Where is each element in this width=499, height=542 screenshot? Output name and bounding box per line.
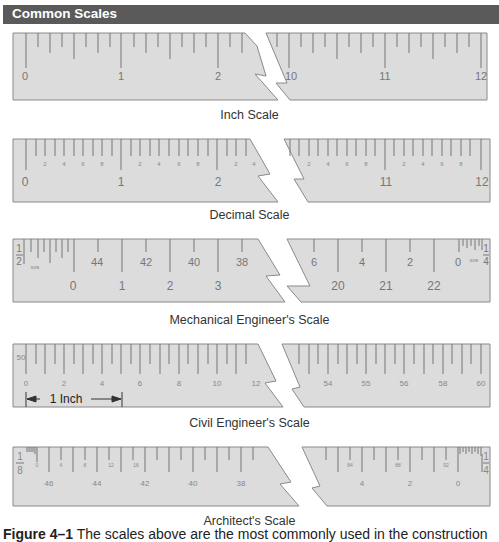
- svg-text:88: 88: [395, 462, 401, 468]
- svg-text:1: 1: [17, 451, 23, 462]
- section-title: Common Scales: [12, 6, 117, 21]
- svg-text:3: 3: [215, 279, 222, 293]
- civil-scale-label: Civil Engineer's Scale: [0, 416, 499, 430]
- caption-text: The scales above are the most commonly u…: [77, 526, 488, 542]
- svg-text:46: 46: [45, 479, 54, 488]
- svg-text:38: 38: [236, 256, 248, 268]
- svg-text:40: 40: [188, 256, 200, 268]
- svg-text:2: 2: [16, 256, 22, 267]
- svg-text:2: 2: [167, 279, 174, 293]
- svg-text:44: 44: [93, 479, 102, 488]
- svg-text:0: 0: [70, 279, 77, 293]
- svg-text:4: 4: [60, 462, 63, 468]
- svg-text:2: 2: [215, 175, 222, 189]
- svg-text:4: 4: [359, 256, 365, 268]
- svg-text:0: 0: [36, 462, 39, 468]
- section-header: Common Scales: [3, 5, 499, 24]
- svg-text:2: 2: [215, 70, 221, 82]
- svg-text:50: 50: [17, 353, 26, 362]
- svg-text:4: 4: [360, 479, 365, 488]
- svg-text:0: 0: [455, 256, 461, 268]
- svg-text:55: 55: [362, 379, 371, 388]
- svg-text:4: 4: [483, 465, 489, 476]
- svg-text:10: 10: [213, 379, 222, 388]
- civil-scale-diagram: 50 0 2 4 6 8 10 12 54 55 56 58 60 1 Inch: [0, 343, 499, 409]
- svg-text:40: 40: [189, 479, 198, 488]
- svg-text:4: 4: [483, 256, 489, 267]
- svg-text:1: 1: [16, 243, 22, 254]
- svg-text:1: 1: [483, 243, 489, 254]
- svg-text:38: 38: [237, 479, 246, 488]
- svg-text:8: 8: [17, 465, 23, 476]
- svg-text:58: 58: [439, 379, 448, 388]
- decimal-scale-diagram: 2468 2468 24 2468 2468 0 1 2 11 12: [0, 138, 499, 204]
- svg-text:6: 6: [138, 379, 143, 388]
- svg-text:56: 56: [400, 379, 409, 388]
- svg-text:42: 42: [141, 479, 150, 488]
- svg-text:44: 44: [91, 256, 103, 268]
- svg-text:0: 0: [24, 379, 29, 388]
- decimal-scale-label: Decimal Scale: [0, 208, 499, 222]
- inch-scale-label: Inch Scale: [0, 108, 499, 122]
- inch-scale-diagram: 0 1 2 10 11 12: [0, 32, 499, 102]
- mechanical-scale-label: Mechanical Engineer's Scale: [0, 313, 499, 327]
- svg-text:2: 2: [408, 479, 413, 488]
- mechanical-scale-diagram: 1 2 SIZE 44 42 40 38 0 1 2 3 6 4 2 0 20 …: [0, 238, 499, 304]
- figure-caption: Figure 4–1 The scales above are the most…: [3, 526, 488, 542]
- svg-text:11: 11: [379, 70, 390, 82]
- svg-text:42: 42: [140, 256, 152, 268]
- svg-text:1: 1: [118, 175, 125, 189]
- one-inch-label: 1 Inch: [50, 392, 83, 406]
- svg-text:8: 8: [177, 379, 182, 388]
- svg-text:10: 10: [285, 70, 297, 82]
- svg-text:54: 54: [324, 379, 333, 388]
- svg-text:21: 21: [379, 279, 393, 293]
- figure-number: Figure 4–1: [3, 526, 73, 542]
- svg-text:1: 1: [119, 279, 126, 293]
- svg-text:12: 12: [108, 462, 114, 468]
- svg-text:12: 12: [252, 379, 261, 388]
- svg-text:20: 20: [331, 279, 345, 293]
- svg-text:16: 16: [133, 462, 139, 468]
- svg-text:11: 11: [380, 175, 393, 189]
- svg-text:2: 2: [407, 256, 413, 268]
- svg-text:12: 12: [475, 175, 489, 189]
- svg-text:84: 84: [347, 462, 353, 468]
- svg-text:12: 12: [475, 70, 487, 82]
- svg-text:6: 6: [311, 256, 317, 268]
- svg-text:0: 0: [22, 175, 29, 189]
- svg-text:1: 1: [118, 70, 124, 82]
- svg-text:4: 4: [100, 379, 105, 388]
- svg-text:SIZE: SIZE: [470, 258, 479, 263]
- svg-text:0: 0: [456, 479, 461, 488]
- inch-left-0: 0: [22, 70, 28, 82]
- svg-text:22: 22: [427, 279, 441, 293]
- svg-text:8: 8: [84, 462, 87, 468]
- svg-text:60: 60: [477, 379, 486, 388]
- svg-text:SIZE: SIZE: [31, 265, 40, 270]
- svg-text:1: 1: [483, 451, 489, 462]
- svg-text:92: 92: [443, 462, 449, 468]
- architect-scale-diagram: 1 8 0 4 8 12 16 46 44 42 40 38 84 88 92 …: [0, 446, 499, 508]
- svg-text:2: 2: [62, 379, 67, 388]
